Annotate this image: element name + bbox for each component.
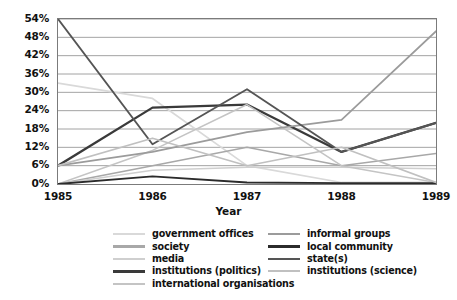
y-tick-18: 18% (24, 123, 49, 133)
legend-item[interactable]: state(s) (268, 253, 417, 265)
x-axis-title: Year (0, 205, 457, 217)
series-line-institutions-politics (58, 105, 436, 166)
x-tick-1986: 1986 (138, 190, 166, 202)
legend-item-label: government offices (152, 229, 254, 239)
x-axis-tick-labels: 19851986198719881989 (0, 190, 457, 206)
legend-item[interactable]: international organisations (113, 278, 294, 290)
y-tick-54: 54% (24, 13, 49, 23)
y-tick-48: 48% (24, 31, 49, 41)
legend-swatch-icon (113, 283, 145, 285)
legend-swatch-icon (113, 245, 145, 247)
series-line-international-organisations (58, 105, 436, 184)
legend-swatch-icon (268, 245, 300, 247)
legend-item-label: institutions (politics) (152, 266, 261, 276)
y-tick-42: 42% (24, 49, 49, 59)
legend-item-label: society (152, 242, 189, 252)
legend-item[interactable]: institutions (science) (268, 265, 417, 277)
legend-swatch-icon (268, 258, 300, 260)
x-tick-1987: 1987 (233, 190, 261, 202)
y-tick-24: 24% (24, 104, 49, 114)
legend-item-label: institutions (science) (307, 266, 417, 276)
plot-frame (57, 18, 437, 185)
legend-swatch-icon (268, 233, 300, 235)
legend-item-label: state(s) (307, 254, 348, 264)
y-tick-12: 12% (24, 141, 49, 151)
chart-lines (58, 19, 436, 184)
legend-swatch-icon (113, 258, 145, 260)
x-tick-1989: 1989 (422, 190, 450, 202)
legend-column-right: informal groupslocal communitystate(s)in… (268, 228, 417, 278)
legend-item[interactable]: informal groups (268, 228, 417, 240)
legend-swatch-icon (113, 270, 145, 273)
legend-item-label: media (152, 254, 184, 264)
chart-page: 0%6%12%18%24%30%36%42%48%54% 19851986198… (0, 0, 457, 300)
legend-item-label: local community (307, 242, 393, 252)
legend-swatch-icon (268, 270, 300, 272)
plot-area: 0%6%12%18%24%30%36%42%48%54% 19851986198… (0, 0, 457, 215)
y-tick-6: 6% (32, 159, 49, 169)
y-tick-0: 0% (32, 178, 49, 188)
series-line-media (58, 167, 436, 184)
y-tick-30: 30% (24, 86, 49, 96)
legend-item-label: informal groups (307, 229, 390, 239)
y-tick-36: 36% (24, 68, 49, 78)
x-tick-1985: 1985 (44, 190, 72, 202)
chart-legend: government officessocietymediainstitutio… (0, 228, 457, 290)
series-line-local-community (58, 176, 436, 184)
legend-item-label: international organisations (152, 279, 294, 289)
x-tick-1988: 1988 (327, 190, 355, 202)
legend-item[interactable]: local community (268, 240, 417, 252)
series-line-informal-groups (58, 31, 436, 165)
legend-swatch-icon (113, 233, 145, 235)
y-axis-tick-labels: 0%6%12%18%24%30%36%42%48%54% (0, 0, 54, 215)
